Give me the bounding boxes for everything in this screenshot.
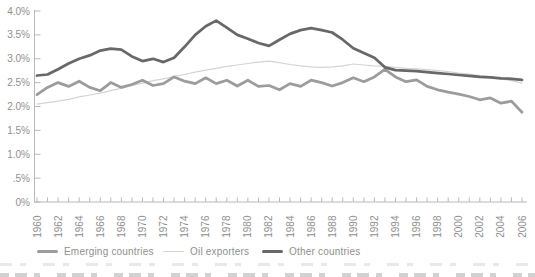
svg-text:1.5%: 1.5% [7, 125, 30, 136]
cropped-text-artifact-top [0, 263, 535, 266]
legend-label-other-countries: Other countries [289, 246, 360, 257]
svg-text:1.0%: 1.0% [7, 149, 30, 160]
line-chart: 4.0%3.5%3.0%2.5%2.0%1.5%1.0%.5%0%1960196… [0, 0, 535, 245]
legend-label-oil-exporters: Oil exporters [190, 246, 249, 257]
svg-text:2002: 2002 [474, 215, 485, 238]
legend-item-oil-exporters: Oil exporters [163, 246, 249, 257]
svg-text:1970: 1970 [137, 215, 148, 238]
svg-text:1974: 1974 [179, 215, 190, 238]
legend-item-other-countries: Other countries [262, 246, 360, 257]
svg-text:1980: 1980 [242, 215, 253, 238]
growth-rates-line-chart-panel: 4.0%3.5%3.0%2.5%2.0%1.5%1.0%.5%0%1960196… [0, 0, 535, 277]
svg-text:2006: 2006 [517, 215, 528, 238]
svg-text:1960: 1960 [32, 215, 43, 238]
other-countries-line-swatch-icon [262, 250, 283, 253]
cropped-text-artifact-bottom [0, 273, 535, 277]
svg-text:1986: 1986 [306, 215, 317, 238]
svg-text:3.0%: 3.0% [7, 53, 30, 64]
svg-text:1990: 1990 [348, 215, 359, 238]
svg-text:2.0%: 2.0% [7, 101, 30, 112]
svg-text:1978: 1978 [221, 215, 232, 238]
svg-text:1998: 1998 [432, 215, 443, 238]
svg-text:1962: 1962 [53, 215, 64, 238]
svg-text:1976: 1976 [200, 215, 211, 238]
legend-label-emerging-countries: Emerging countries [64, 246, 154, 257]
svg-text:1982: 1982 [263, 215, 274, 238]
svg-text:0%: 0% [16, 197, 31, 208]
svg-text:2000: 2000 [453, 215, 464, 238]
svg-text:3.5%: 3.5% [7, 29, 30, 40]
legend-item-emerging-countries: Emerging countries [37, 246, 154, 257]
svg-text:1972: 1972 [158, 215, 169, 238]
svg-text:2004: 2004 [495, 215, 506, 238]
chart-legend: Emerging countries Oil exporters Other c… [0, 246, 535, 258]
svg-text:1968: 1968 [116, 215, 127, 238]
oil-exporters-line-swatch-icon [163, 251, 184, 252]
svg-text:1996: 1996 [411, 215, 422, 238]
svg-text:1984: 1984 [285, 215, 296, 238]
svg-text:1964: 1964 [74, 215, 85, 238]
svg-text:4.0%: 4.0% [7, 6, 30, 17]
emerging-countries-line-swatch-icon [37, 250, 58, 253]
svg-text:1966: 1966 [95, 215, 106, 238]
svg-text:1992: 1992 [369, 215, 380, 238]
svg-text:1994: 1994 [390, 215, 401, 238]
svg-text:.5%: .5% [13, 173, 30, 184]
svg-text:1988: 1988 [327, 215, 338, 238]
svg-text:2.5%: 2.5% [7, 77, 30, 88]
